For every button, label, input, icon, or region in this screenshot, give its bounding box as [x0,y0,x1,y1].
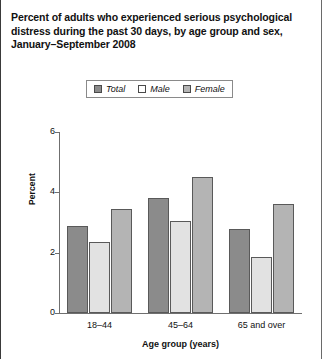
x-tick-label: 45–64 [168,320,193,330]
y-tick-label: 2 [50,247,55,258]
legend-entry-female: Female [183,84,225,94]
y-tick-mark [55,313,59,314]
bar-total-2 [229,229,250,313]
x-tick-label: 65 and over [238,320,286,330]
y-tick-label: 0 [50,307,55,318]
chart-figure: Percent of adults who experienced seriou… [0,0,322,359]
y-axis-title: Percent [27,173,37,205]
legend-swatch-female-icon [183,85,191,93]
y-tick-label: 6 [50,126,55,137]
bar-female-1 [192,177,213,313]
legend-label-male: Male [150,84,170,94]
plot-area: 0246 18–4445–6465 and over Age group (ye… [59,132,302,313]
legend-label-female: Female [195,84,225,94]
y-axis-line [59,132,60,314]
bar-female-2 [273,204,294,313]
page-title: Percent of adults who experienced seriou… [11,11,311,52]
title-line-3: January–September 2008 [11,38,311,52]
bar-female-0 [111,209,132,313]
y-tick-mark [55,192,59,193]
x-axis-title: Age group (years) [59,339,302,349]
legend-entry-total: Total [94,84,125,94]
y-tick-mark [55,253,59,254]
legend-label-total: Total [106,84,125,94]
x-axis-line [59,313,302,314]
legend-swatch-total-icon [94,85,102,93]
chart-legend: Total Male Female [86,80,233,98]
legend-swatch-male-icon [138,85,146,93]
title-line-1: Percent of adults who experienced seriou… [11,11,311,25]
bar-male-2 [251,257,272,313]
bar-total-1 [148,198,169,313]
bar-male-1 [170,221,191,313]
bar-total-0 [67,226,88,313]
legend-entry-male: Male [138,84,170,94]
x-tick-label: 18–44 [87,320,112,330]
bar-male-0 [89,242,110,313]
y-tick-label: 4 [50,186,55,197]
y-tick-mark [55,132,59,133]
title-line-2: distress during the past 30 days, by age… [11,25,311,39]
